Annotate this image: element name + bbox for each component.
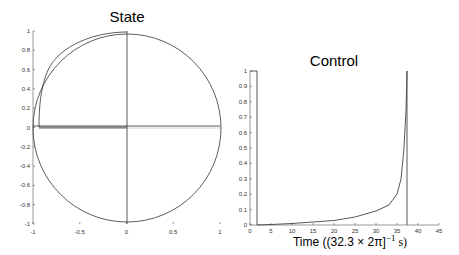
x-tick-label: 20	[331, 228, 338, 234]
control-axes	[250, 71, 439, 225]
y-tick-label: 0	[244, 222, 248, 228]
x-tick-label: 5	[269, 228, 273, 234]
control-chart: Control 10.90.80.70.60.50.40.30.20.10 05…	[239, 52, 443, 249]
y-tick-label: 0.4	[239, 160, 248, 166]
x-tick-label: 25	[352, 228, 359, 234]
y-tick-label: 0.9	[239, 83, 248, 89]
figure: State 10.80.60.40.20-0.2-0.4-0.6-0.8-1 -…	[0, 0, 459, 255]
x-tick-label: 30	[373, 228, 380, 234]
y-tick-label: -1	[25, 221, 31, 227]
x-tick-label: 1	[218, 229, 222, 235]
y-tick-label: 1	[27, 28, 31, 34]
x-tick-label: 0.5	[169, 229, 178, 235]
y-tick-label: 0.7	[239, 114, 248, 120]
x-tick-label: -1	[30, 229, 36, 235]
x-tick-label: 45	[436, 228, 443, 234]
y-tick-label: 0.6	[22, 67, 31, 73]
control-title: Control	[310, 52, 358, 69]
y-tick-label: -0.6	[20, 182, 31, 188]
state-trajectory	[39, 32, 127, 127]
y-tick-label: 0.6	[239, 130, 248, 136]
y-tick-label: 1	[244, 68, 248, 74]
y-tick-label: -0.8	[20, 202, 31, 208]
x-tick-label: 0	[125, 229, 129, 235]
y-tick-label: 0.3	[239, 176, 248, 182]
y-tick-label: 0.8	[22, 47, 31, 53]
state-chart: State 10.80.60.40.20-0.2-0.4-0.6-0.8-1 -…	[20, 8, 223, 235]
y-tick-label: -0.2	[20, 144, 31, 150]
y-tick-label: 0	[27, 125, 31, 131]
y-tick-label: 0.8	[239, 99, 248, 105]
x-tick-label: -0.5	[75, 229, 86, 235]
control-x-ticks: 051015202530354045	[248, 223, 443, 234]
y-tick-label: 0.2	[22, 105, 31, 111]
x-tick-label: 15	[310, 228, 317, 234]
control-curve	[250, 71, 407, 225]
control-x-label: Time ((32.3 × 2π]−1 s)	[293, 233, 407, 249]
y-tick-label: 0.1	[239, 207, 248, 213]
x-tick-label: 0	[248, 228, 252, 234]
x-tick-label: 40	[415, 228, 422, 234]
y-tick-label: -0.4	[20, 163, 31, 169]
y-tick-label: 0.4	[22, 86, 31, 92]
y-tick-label: 0.2	[239, 191, 248, 197]
y-tick-label: 0.5	[239, 145, 248, 151]
state-x-ticks: -1-0.500.51	[30, 222, 222, 235]
x-tick-label: 10	[289, 228, 296, 234]
state-title: State	[109, 8, 144, 25]
